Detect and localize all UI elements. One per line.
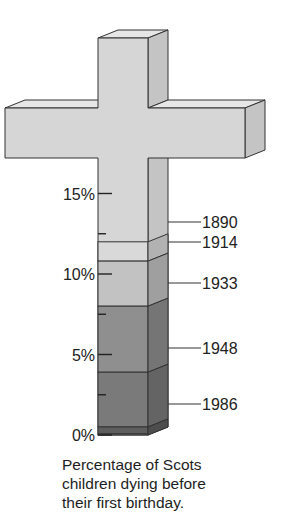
band-front-1914: [98, 261, 148, 306]
caption-line-1: Percentage of Scots: [62, 455, 286, 474]
y-tick-label: 10%: [63, 266, 95, 283]
band-side-1948: [148, 364, 168, 427]
year-label-1933: 1933: [202, 275, 238, 292]
cross-upper-side-face: [148, 30, 168, 108]
chart-caption: Percentage of Scots children dying befor…: [62, 455, 286, 512]
y-tick-label: 5%: [72, 347, 95, 364]
band-front-1890: [98, 242, 148, 261]
year-label-1948: 1948: [202, 340, 238, 357]
year-label-1914: 1914: [202, 234, 238, 251]
crossbar-end-face: [245, 100, 265, 158]
year-label-1890: 1890: [202, 214, 238, 231]
band-front-1948: [98, 372, 148, 427]
year-label-1986: 1986: [202, 396, 238, 413]
band-side-1914: [148, 253, 168, 306]
band-side-1933: [148, 298, 168, 372]
y-tick-label: 15%: [63, 186, 95, 203]
caption-line-3: their first birthday.: [62, 493, 286, 512]
y-tick-label: 0%: [72, 427, 95, 444]
cross-chart: 15%10%5%0%18901914193319481986: [0, 0, 286, 521]
caption-line-2: children dying before: [62, 474, 286, 493]
band-front-1933: [98, 306, 148, 372]
